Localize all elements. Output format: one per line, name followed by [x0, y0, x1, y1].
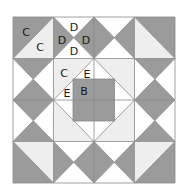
hst-bottom-right: [135, 142, 176, 184]
hst-top-right: [135, 17, 176, 59]
hourglass-right-1: [135, 59, 176, 101]
label-d-right: D: [82, 34, 90, 47]
label-c-center: C: [60, 67, 68, 80]
hourglass-right-2: [135, 100, 176, 142]
label-d-top: D: [70, 21, 78, 34]
hst-top-left: [13, 17, 54, 59]
hourglass-bottom-2: [94, 142, 135, 184]
label-e-upper: E: [84, 68, 91, 81]
quilt-block-diagram: C C D D D D C E E B: [0, 0, 187, 194]
label-b-center: B: [80, 85, 88, 98]
label-c-inner: C: [36, 41, 44, 54]
hourglass-left-1: [13, 59, 54, 101]
label-c-outer: C: [22, 26, 30, 39]
hourglass-top-2: [94, 17, 135, 59]
label-d-left: D: [58, 34, 66, 47]
hst-bottom-left: [13, 142, 54, 184]
hourglass-bottom-1: [54, 142, 95, 184]
hourglass-left-2: [13, 100, 54, 142]
label-d-bottom: D: [70, 45, 78, 58]
label-e-lower: E: [64, 87, 71, 100]
